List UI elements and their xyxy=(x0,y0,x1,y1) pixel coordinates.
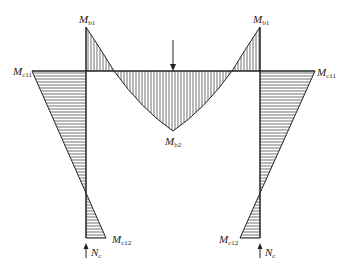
label-mb1-right: Mb1 xyxy=(253,14,269,27)
left-column-upper-region xyxy=(32,71,86,193)
label-mc12-left: Mc12 xyxy=(112,234,131,247)
beam-right-hogging-region xyxy=(232,27,260,71)
right-column-upper-region xyxy=(260,71,315,193)
point-load-arrow-icon xyxy=(170,40,176,71)
label-nc-right: Nc xyxy=(265,247,275,260)
left-column-lower-region xyxy=(86,193,106,238)
label-mc12-right: Mc12 xyxy=(219,234,238,247)
beam-sagging-region xyxy=(114,71,232,131)
right-axial-force-arrow-icon xyxy=(258,243,263,258)
beam-left-hogging-region xyxy=(86,27,114,71)
label-nc-left: Nc xyxy=(91,247,101,260)
label-mc11-right: Mc11 xyxy=(317,67,336,80)
label-mb2: Mb2 xyxy=(165,136,181,149)
label-mc11-left: Mc11 xyxy=(13,66,32,79)
label-mb1-left: Mb1 xyxy=(79,14,95,27)
left-axial-force-arrow-icon xyxy=(84,243,89,258)
right-column-lower-region xyxy=(240,193,260,238)
